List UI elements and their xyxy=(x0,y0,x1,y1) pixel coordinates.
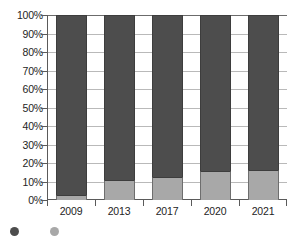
y-tick-label: 0% xyxy=(0,195,43,206)
bar-segment xyxy=(56,15,87,195)
bar-group xyxy=(200,15,231,200)
x-tick-label: 2020 xyxy=(204,205,227,218)
bar-segment xyxy=(200,171,231,200)
legend-swatch xyxy=(50,227,59,236)
bar-segment xyxy=(104,180,135,200)
y-tick-label: 70% xyxy=(0,65,43,76)
x-tick-label: 2021 xyxy=(252,205,275,218)
bar-segment xyxy=(152,177,183,200)
chart-legend xyxy=(10,227,296,237)
legend-swatch xyxy=(10,227,19,236)
legend-entry xyxy=(10,227,24,236)
y-tick-label: 50% xyxy=(0,102,43,113)
y-tick-label: 10% xyxy=(0,176,43,187)
x-axis-labels: 20092013201720202021 xyxy=(47,205,287,221)
bar-group xyxy=(104,15,135,200)
legend-entry xyxy=(50,227,64,236)
bar-segment xyxy=(104,15,135,180)
y-axis: 0%10%20%30%40%50%60%70%80%90%100% xyxy=(0,0,43,215)
bar-segment xyxy=(152,15,183,177)
y-tick-label: 60% xyxy=(0,84,43,95)
stacked-bar-chart: 0%10%20%30%40%50%60%70%80%90%100% 200920… xyxy=(0,0,296,237)
bar-group xyxy=(56,15,87,200)
y-tick-label: 40% xyxy=(0,121,43,132)
y-tick-label: 80% xyxy=(0,47,43,58)
bar-segment xyxy=(200,15,231,171)
bar-group xyxy=(248,15,279,200)
y-tick-label: 90% xyxy=(0,28,43,39)
bar-segment xyxy=(248,170,279,200)
y-tick-label: 100% xyxy=(0,10,43,21)
bar-group xyxy=(152,15,183,200)
x-tick-label: 2013 xyxy=(108,205,131,218)
y-tick-label: 30% xyxy=(0,139,43,150)
x-tick-label: 2017 xyxy=(156,205,179,218)
bar-segment xyxy=(248,15,279,170)
bars-layer xyxy=(47,15,287,200)
y-tick-label: 20% xyxy=(0,158,43,169)
x-tick-label: 2009 xyxy=(60,205,83,218)
